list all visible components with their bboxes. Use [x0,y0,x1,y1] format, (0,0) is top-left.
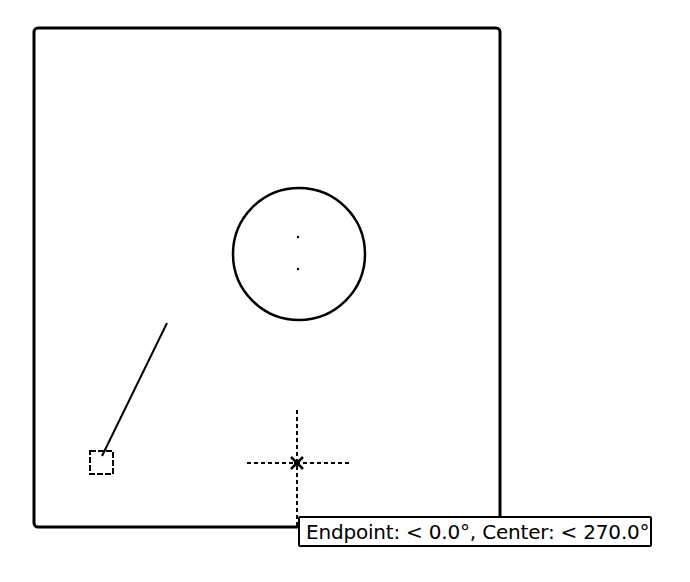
circle-object[interactable] [233,188,365,320]
snap-tooltip-text: Endpoint: < 0.0°, Center: < 270.0° [306,520,649,544]
snap-tooltip: Endpoint: < 0.0°, Center: < 270.0° [298,516,652,547]
crosshair-cursor-icon [247,410,349,528]
endpoint-snap-marker-icon [90,451,113,474]
center-mark-icon [297,236,299,238]
line-object[interactable] [102,323,167,456]
center-mark-icon [297,268,299,270]
drawing-canvas[interactable] [0,0,690,582]
